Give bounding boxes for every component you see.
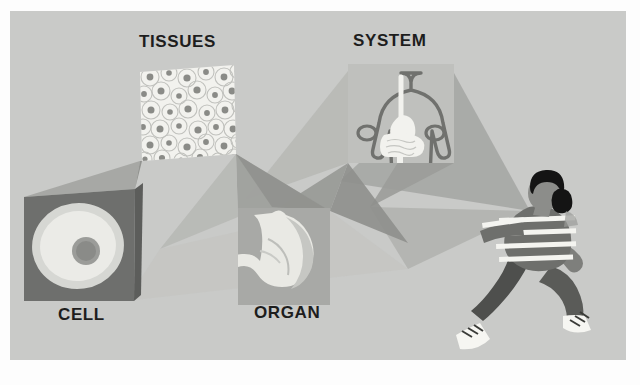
panel-tissues[interactable]: [135, 64, 246, 167]
panel-cell[interactable]: [24, 183, 143, 301]
panel-system[interactable]: [348, 64, 454, 177]
illustration-stage: TISSUES SYSTEM CELL ORGAN: [0, 0, 640, 385]
label-tissues: TISSUES: [139, 32, 216, 52]
label-system: SYSTEM: [353, 31, 427, 51]
ponytail: [552, 189, 573, 214]
label-organ: ORGAN: [254, 303, 320, 323]
label-cell: CELL: [58, 305, 105, 325]
